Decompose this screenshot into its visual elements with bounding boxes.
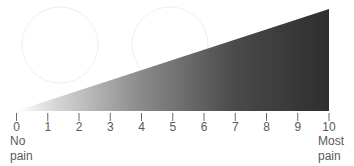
tick-label: 6 [201, 121, 208, 134]
tick-label: 5 [169, 121, 176, 134]
left-anchor-label: No pain [10, 134, 33, 164]
tick-label: 8 [263, 121, 270, 134]
tick-label: 9 [294, 121, 301, 134]
tick-label: 3 [107, 121, 114, 134]
pain-intensity-wedge [16, 9, 329, 111]
left-anchor-line1: No [10, 134, 33, 149]
tick-label: 7 [232, 121, 239, 134]
right-anchor-line2: pain [318, 149, 344, 164]
right-anchor-label: Most pain [318, 134, 344, 164]
tick-label: 2 [76, 121, 83, 134]
right-anchor-line1: Most [318, 134, 344, 149]
left-anchor-line2: pain [10, 149, 33, 164]
tick-label: 10 [322, 121, 335, 134]
pain-scale-graphic [0, 0, 354, 166]
tick-label: 0 [13, 121, 20, 134]
tick-label: 1 [44, 121, 51, 134]
tick-label: 4 [138, 121, 145, 134]
